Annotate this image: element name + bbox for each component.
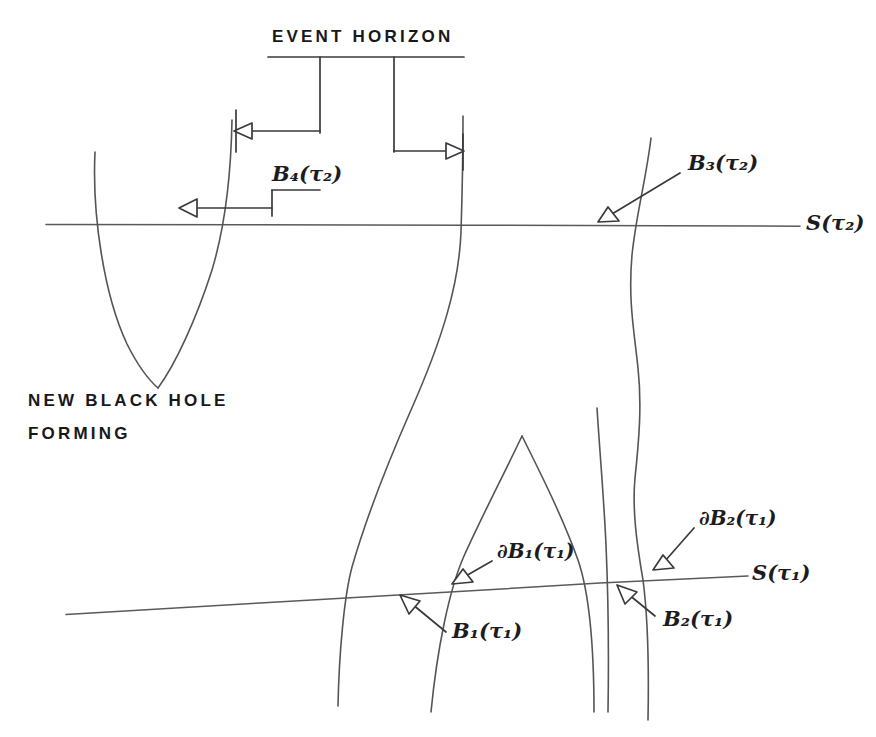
label-b1: B₁(τ₁) <box>452 620 522 641</box>
b3-pointer-head <box>598 207 619 222</box>
slice-line-upper <box>46 225 800 227</box>
new-black-hole-left-branch <box>95 152 158 388</box>
diagram-canvas <box>0 0 876 737</box>
label-b2: B₂(τ₁) <box>663 608 733 629</box>
label-slice-lower: S(τ₁) <box>752 562 810 583</box>
b1-pointer-shaft <box>412 604 446 632</box>
b4-arrow-head <box>179 199 197 217</box>
db1-pointer-head <box>452 569 473 584</box>
inner-peak-right-branch <box>522 436 594 712</box>
horizon-indicator-arrow-right-head <box>446 143 464 159</box>
b2-pointer-head <box>617 585 637 604</box>
new-black-hole-note-line1: NEW BLACK HOLE <box>28 392 229 410</box>
db2-pointer-head <box>653 555 674 570</box>
db2-pointer-shaft <box>665 528 694 561</box>
label-db2: ∂B₂(τ₁) <box>699 508 777 528</box>
horizon-inner-right-curve <box>597 408 608 712</box>
label-slice-upper: S(τ₂) <box>806 212 864 233</box>
b1-pointer-head <box>400 595 420 614</box>
label-b4: B₄(τ₂) <box>272 163 342 184</box>
new-black-hole-right-branch <box>158 120 232 388</box>
horizon-left-wall-curve <box>338 116 463 706</box>
label-b3: B₃(τ₂) <box>688 152 758 173</box>
event-horizon-caption: EVENT HORIZON <box>272 28 453 46</box>
event-horizon-figure: EVENT HORIZON NEW BLACK HOLE FORMING S(τ… <box>0 0 876 737</box>
inner-peak-left-branch <box>431 436 522 712</box>
new-black-hole-note-line2: FORMING <box>28 425 131 443</box>
label-db1: ∂B₁(τ₁) <box>497 541 575 561</box>
b3-pointer-shaft <box>612 173 680 214</box>
